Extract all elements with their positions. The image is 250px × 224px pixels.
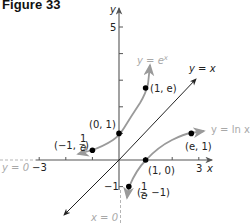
svg-text:(−1,: (−1, [54, 140, 76, 151]
label-e-1: (e, 1) [185, 141, 212, 152]
figure-title: Figure 33 [2, 0, 61, 12]
svg-text:): ) [85, 140, 89, 151]
point-m1-inv-e [90, 147, 96, 153]
chart-svg: y x 5 −1 −3 3 y = 0 x = 0 y = ex y = x y… [0, 0, 250, 224]
identity-line-label: y = x [188, 63, 216, 74]
point-0-1 [116, 131, 122, 137]
ln-curve [129, 131, 204, 187]
y-ticks [119, 27, 123, 187]
asymptote-y0-label: y = 0 [1, 162, 29, 173]
label-1-e: (1, e) [150, 83, 177, 94]
point-1-e [143, 85, 149, 91]
ln-curve-label: y = ln x [211, 124, 250, 135]
exp-curve-label: y = ex [136, 54, 169, 66]
y-axis-label: y [109, 4, 117, 15]
svg-text:, −1): , −1) [145, 187, 170, 198]
x-tick-3: 3 [196, 163, 202, 174]
label-1-0: (1, 0) [148, 165, 175, 176]
y-tick-m1: −1 [104, 181, 119, 192]
point-e-1 [189, 131, 195, 137]
label-0-1: (0, 1) [89, 119, 116, 130]
x-tick-m3: −3 [32, 162, 47, 173]
exp-curve [90, 65, 150, 151]
figure: Figure 33 [0, 0, 250, 224]
label-inv-e-m1: ( 1 e , −1) [137, 181, 170, 201]
point-inv-e-m1 [126, 184, 132, 190]
point-1-0 [143, 157, 149, 163]
x-axis-label: x [206, 163, 213, 174]
y-tick-5: 5 [110, 22, 116, 33]
asymptote-x0-label: x = 0 [90, 212, 118, 223]
label-m1-inv-e: (−1, 1 e ) [54, 133, 89, 153]
